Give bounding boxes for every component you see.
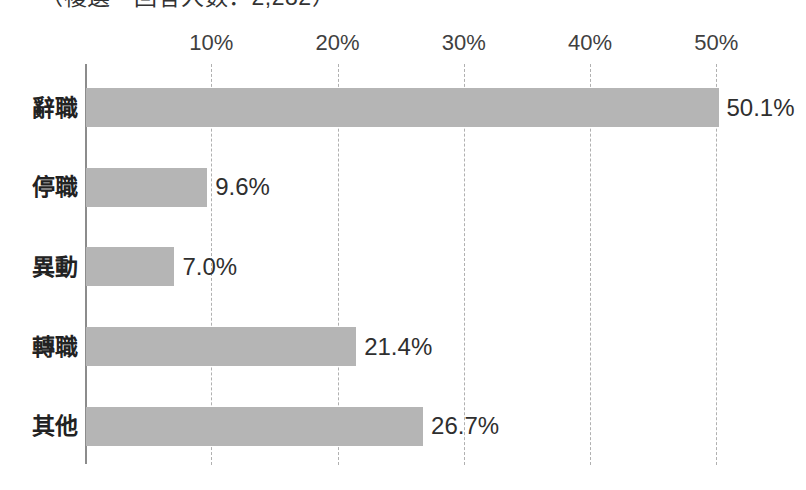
bar-停職 bbox=[86, 168, 207, 207]
x-tick-label: 10% bbox=[189, 30, 233, 56]
plot-area: 10%20%30%40%50% 辭職停職異動轉職其他 50.1%9.6%7.0%… bbox=[0, 0, 806, 490]
bar-轉職 bbox=[86, 327, 356, 366]
x-tick-label: 20% bbox=[315, 30, 359, 56]
y-category-label: 轉職 bbox=[0, 334, 78, 360]
bar-value-label: 7.0% bbox=[182, 253, 237, 281]
bar-辭職 bbox=[86, 88, 719, 127]
bar-value-label: 50.1% bbox=[727, 94, 795, 122]
y-category-label: 停職 bbox=[0, 174, 78, 200]
y-category-label: 異動 bbox=[0, 254, 78, 280]
y-category-label: 辭職 bbox=[0, 95, 78, 121]
bar-value-label: 9.6% bbox=[215, 173, 270, 201]
y-category-label: 其他 bbox=[0, 413, 78, 439]
x-tick-label: 30% bbox=[442, 30, 486, 56]
bar-其他 bbox=[86, 407, 423, 446]
bar-異動 bbox=[86, 247, 174, 286]
x-tick-label: 50% bbox=[694, 30, 738, 56]
bar-value-label: 21.4% bbox=[364, 333, 432, 361]
bar-chart: （複選・回答人数：2,282） 10%20%30%40%50% 辭職停職異動轉職… bbox=[0, 0, 806, 490]
bar-value-label: 26.7% bbox=[431, 412, 499, 440]
x-tick-label: 40% bbox=[568, 30, 612, 56]
